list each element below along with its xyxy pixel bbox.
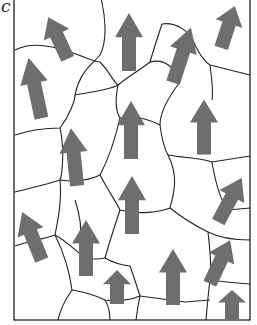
grain-boundary (100, 62, 118, 85)
orientation-arrow-icon (208, 2, 248, 52)
grain-boundary (15, 128, 63, 192)
grain-boundary (75, 0, 105, 95)
orientation-arrow-icon (72, 220, 100, 276)
orientation-arrow-icon (160, 23, 205, 87)
orientation-arrow-icon (57, 127, 91, 188)
orientation-arrow-icon (103, 270, 131, 304)
orientation-arrow-icon (117, 101, 145, 159)
grain-boundary (136, 296, 140, 320)
grain-orientation-diagram (0, 0, 257, 325)
orientation-arrow-icon (9, 207, 54, 266)
orientation-arrow-icon (115, 13, 143, 71)
grain-boundary (160, 82, 180, 155)
grain-boundary (72, 290, 140, 301)
grain-boundary (168, 155, 175, 208)
grain-boundary (75, 85, 118, 95)
orientation-arrow-icon (218, 290, 246, 320)
orientation-arrow-icon (118, 176, 146, 234)
grain-boundary (105, 300, 110, 320)
orientation-arrow-icon (36, 11, 81, 65)
grain-boundary (100, 85, 120, 175)
orientation-arrow-icon (206, 171, 254, 228)
orientation-arrow-icon (190, 100, 218, 155)
grain-boundary (195, 45, 250, 75)
grain-boundary (168, 155, 250, 162)
grain-boundary (130, 266, 140, 296)
orientation-arrow-icon (15, 55, 55, 121)
orientation-arrow-icon (159, 249, 187, 305)
grain-boundary (55, 235, 72, 320)
grain-boundary (208, 232, 250, 240)
grain-boundary (210, 65, 212, 100)
